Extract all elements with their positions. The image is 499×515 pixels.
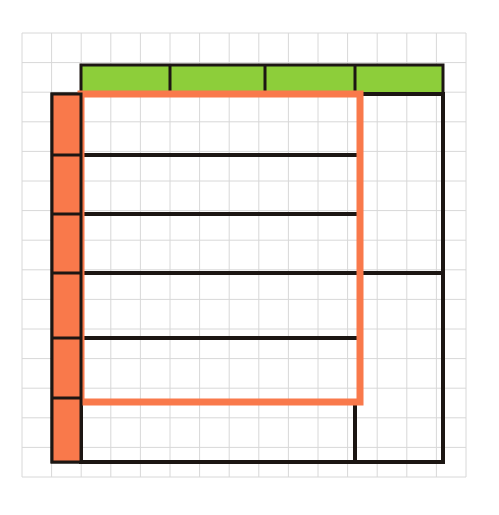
- graph-paper-grid: [22, 33, 466, 477]
- diagram-canvas: [0, 0, 499, 515]
- orange-left-column-overlay: [52, 94, 81, 462]
- green-top-band: [81, 65, 443, 94]
- floor-plan-svg: [0, 0, 499, 515]
